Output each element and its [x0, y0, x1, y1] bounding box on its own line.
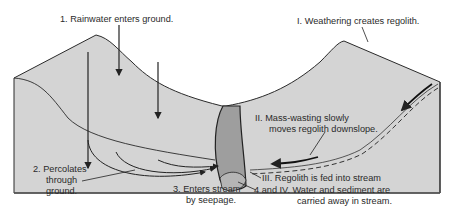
label-step3-2: by seepage.: [186, 195, 236, 205]
diagram-canvas: 1. Rainwater enters ground. I. Weatherin…: [0, 0, 467, 221]
label-step2-1: 2. Percolates: [33, 164, 87, 174]
label-step3-1: 3. Enters stream: [173, 184, 241, 194]
label-step2-3: ground.: [46, 186, 77, 196]
label-step1: 1. Rainwater enters ground.: [60, 14, 173, 24]
label-stepIII: III. Regolith is fed into stream: [262, 173, 381, 183]
label-step2-2: through: [46, 175, 77, 185]
label-step4-1: 4 and IV. Water and sediment are: [254, 185, 390, 195]
label-step4-2: carried away in stream.: [297, 196, 392, 206]
label-stepII-2: moves regolith downslope.: [269, 124, 378, 134]
leader-weathering: [362, 27, 368, 42]
label-stepII-1: II. Mass-wasting slowly: [255, 113, 349, 123]
label-stepI: I. Weathering creates regolith.: [297, 16, 419, 26]
hillslope-diagram: 1. Rainwater enters ground. I. Weatherin…: [0, 0, 467, 221]
